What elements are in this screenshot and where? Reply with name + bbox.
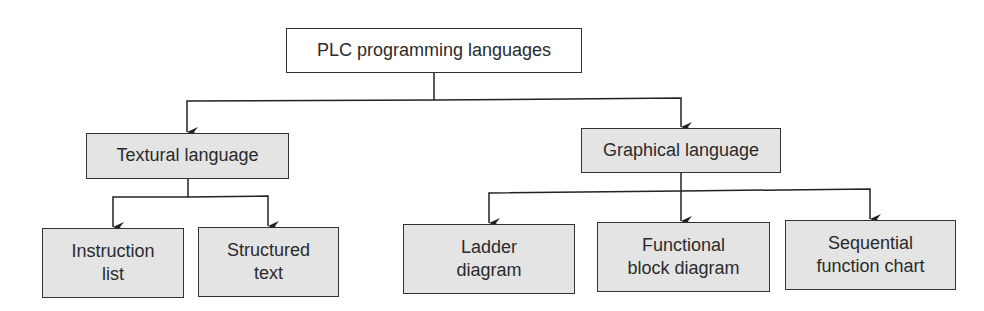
node-graphical-language: Graphical language [581,128,781,173]
node-label: Sequential function chart [816,232,924,279]
node-label: Structured text [227,239,310,286]
edge-graphical-sfc [681,189,870,219]
edge-root-graphical [434,98,681,127]
node-ladder-diagram: Ladder diagram [403,224,575,294]
node-instruction-list: Instruction list [42,228,184,298]
node-plc-programming-languages: PLC programming languages [286,28,582,73]
node-label: PLC programming languages [317,39,551,62]
node-functional-block-diagram: Functional block diagram [597,222,770,292]
node-label: Textural language [116,144,258,167]
edge-textural-il [113,197,188,227]
node-label: Ladder diagram [456,236,521,283]
node-structured-text: Structured text [198,227,339,297]
node-sequential-function-chart: Sequential function chart [785,220,956,290]
edge-graphical-ld [489,191,681,223]
edge-root-textural [187,100,434,132]
edge-textural-st [188,196,268,226]
node-label: Functional block diagram [627,234,739,281]
node-label: Instruction list [71,240,154,287]
node-label: Graphical language [603,139,759,162]
node-textural-language: Textural language [86,133,289,179]
